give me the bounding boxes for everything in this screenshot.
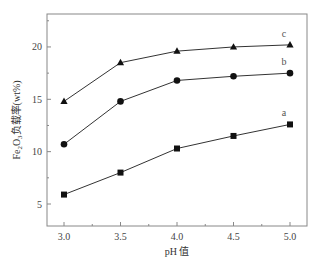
square-marker — [174, 146, 180, 152]
square-marker — [61, 192, 67, 198]
series-label: c — [282, 28, 287, 39]
series-line — [64, 73, 290, 144]
x-axis: 3.03.54.04.55.0 — [58, 222, 297, 242]
y-axis-title: Fe2O3负载率(wt%) — [10, 80, 24, 159]
line-chart: 5101520 3.03.54.04.55.0 abc pH 值 Fe2O3负载… — [0, 0, 319, 268]
y-tick-label: 10 — [32, 146, 42, 157]
y-axis: 5101520 — [32, 21, 51, 210]
x-tick-label: 4.0 — [171, 231, 184, 242]
y-tick-label: 15 — [32, 94, 42, 105]
circle-marker — [287, 70, 294, 77]
x-tick-label: 3.0 — [58, 231, 71, 242]
series-c: c — [60, 28, 293, 104]
x-axis-title: pH 值 — [165, 245, 190, 257]
x-tick-label: 3.5 — [114, 231, 127, 242]
triangle-marker — [230, 43, 237, 49]
x-tick-label: 4.5 — [227, 231, 240, 242]
series-group: abc — [60, 28, 293, 198]
y-tick-label: 5 — [37, 199, 42, 210]
x-tick-label: 5.0 — [284, 231, 297, 242]
square-marker — [287, 121, 293, 127]
series-label: a — [282, 107, 287, 118]
square-marker — [118, 170, 124, 176]
circle-marker — [117, 98, 124, 105]
series-line — [64, 124, 290, 194]
series-a: a — [61, 107, 293, 197]
square-marker — [231, 133, 237, 139]
circle-marker — [174, 77, 181, 84]
triangle-marker — [286, 41, 293, 47]
circle-marker — [61, 141, 68, 148]
y-tick-label: 20 — [32, 41, 42, 52]
circle-marker — [230, 73, 237, 80]
series-label: b — [282, 56, 287, 67]
series-b: b — [61, 56, 294, 147]
triangle-marker — [60, 98, 67, 104]
